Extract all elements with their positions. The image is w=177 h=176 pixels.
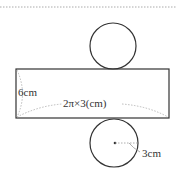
top-circle	[90, 23, 136, 69]
height-label: 6cm	[18, 87, 37, 98]
lateral-rectangle	[16, 69, 169, 118]
length-dimension-arc-left	[17, 104, 62, 117]
radius-label: 3cm	[142, 148, 161, 159]
length-label: 2π×3(cm)	[63, 98, 107, 109]
length-dimension-arc-right	[122, 104, 168, 117]
